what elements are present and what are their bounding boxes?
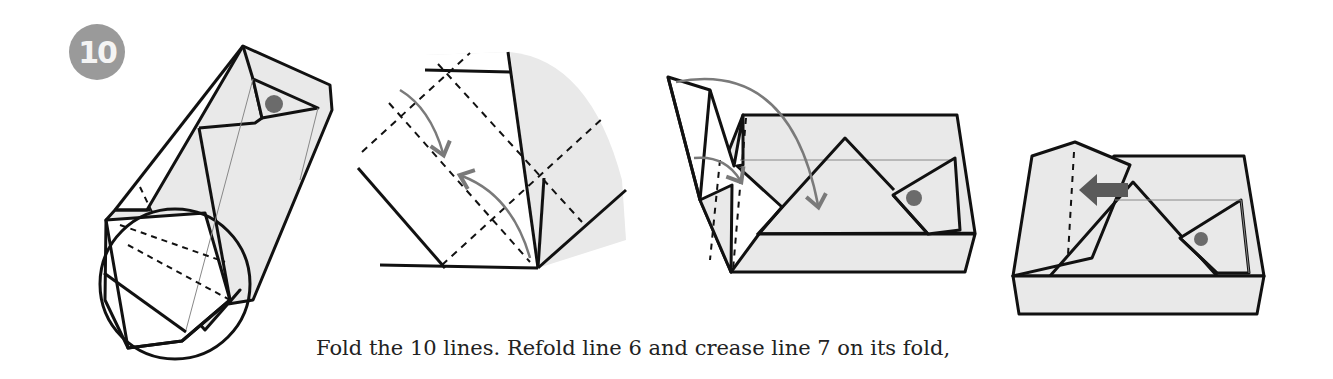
instruction-caption: Fold the 10 lines. Refold line 6 and cre… — [316, 336, 950, 360]
reference-dot-icon — [906, 190, 922, 206]
figure-c-box-with-flaps — [668, 77, 975, 272]
reference-dot-icon — [265, 95, 283, 113]
origami-diagram — [0, 0, 1333, 379]
reference-dot-icon — [1194, 232, 1208, 246]
figure-d-finished-box — [1013, 142, 1264, 314]
figure-b-magnified-detail — [358, 52, 626, 268]
figure-a-folded-base — [100, 46, 332, 359]
